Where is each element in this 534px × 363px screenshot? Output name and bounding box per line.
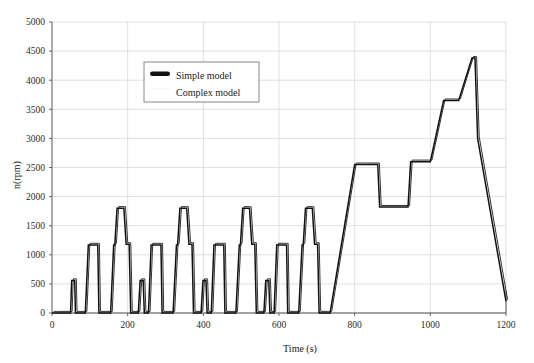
rpm-vs-time-chart: 0500100015002000250030003500400045005000…	[0, 0, 534, 363]
y-tick-label: 1500	[26, 221, 45, 231]
x-tick-label: 1000	[421, 320, 440, 330]
x-tick-label: 0	[50, 320, 55, 330]
chart-background	[0, 0, 534, 363]
y-tick-label: 1000	[26, 250, 45, 260]
x-tick-label: 1200	[497, 320, 516, 330]
y-axis-title: n(rpm)	[11, 161, 23, 189]
x-tick-label: 200	[121, 320, 136, 330]
legend-swatch-simple-model	[150, 72, 170, 77]
y-tick-label: 4500	[26, 46, 45, 56]
legend-label-complex-model: Complex model	[176, 87, 240, 98]
chart-legend[interactable]: Simple model Complex model	[144, 62, 259, 102]
y-tick-label: 5000	[26, 17, 45, 27]
y-tick-label: 500	[31, 279, 46, 289]
y-tick-label: 3000	[26, 134, 45, 144]
x-tick-label: 800	[348, 320, 363, 330]
y-tick-label: 2000	[26, 192, 45, 202]
y-tick-label: 0	[40, 308, 45, 318]
x-axis-title: Time (s)	[283, 343, 317, 355]
chart-container: 0500100015002000250030003500400045005000…	[0, 0, 534, 363]
x-tick-label: 600	[272, 320, 287, 330]
legend-label-simple-model: Simple model	[176, 70, 232, 81]
x-tick-label: 400	[196, 320, 211, 330]
y-tick-label: 4000	[26, 76, 45, 86]
y-tick-label: 3500	[26, 105, 45, 115]
legend-swatch-complex-model	[150, 89, 170, 90]
y-tick-label: 2500	[26, 163, 45, 173]
